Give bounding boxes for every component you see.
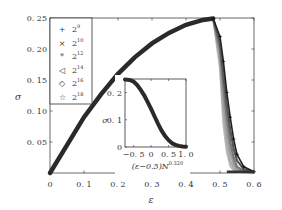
inset-x-tick-label: 0	[149, 150, 154, 159]
x-tick-label: 0	[47, 180, 52, 189]
legend-marker-icon: ×	[59, 39, 66, 48]
inset-y-tick-label: 0	[117, 143, 122, 152]
x-tick-label: 0. 2	[110, 180, 125, 189]
x-tick-label: 0. 5	[212, 180, 227, 189]
inset-y-tick-label: 0. 1	[107, 116, 122, 125]
y-tick-label: 0. 10	[27, 107, 47, 116]
x-tick-label: 0. 1	[76, 180, 91, 189]
y-tick-label: 0. 15	[27, 76, 47, 85]
legend-marker-icon: ◇	[59, 79, 66, 88]
inset-x-tick-label: −0. 5	[123, 150, 145, 159]
inset-x-tick-label: 1. 0	[178, 150, 193, 159]
legend-marker-icon: +	[59, 25, 66, 34]
legend-box	[50, 18, 92, 104]
y-tick-label: 0. 25	[27, 14, 47, 23]
inset-y-axis-label: σ	[102, 116, 108, 125]
x-tick-label: 0. 3	[144, 180, 159, 189]
inset-y-tick-label: 0. 2	[107, 89, 122, 98]
y-axis-label: σ	[15, 92, 22, 102]
chart: 00. 10. 20. 30. 40. 50. 60. 050. 100. 15…	[0, 0, 282, 210]
legend-marker-icon: *	[60, 52, 64, 61]
inset-plot: −0. 500. 51. 000. 10. 2(ε−0.5)N0.320σ	[102, 75, 193, 179]
legend-marker-icon: ◁	[58, 66, 65, 75]
x-tick-label: 0. 4	[178, 180, 193, 189]
y-tick-label: 0. 05	[27, 138, 47, 147]
x-axis-label: ε	[149, 195, 154, 205]
x-tick-label: 0. 6	[246, 180, 261, 189]
legend: +29×210*212◁214◇216☆218	[50, 18, 92, 104]
legend-marker-icon: ☆	[59, 93, 66, 102]
inset-x-tick-label: 0. 5	[161, 150, 176, 159]
y-tick-label: 0. 20	[27, 45, 47, 54]
